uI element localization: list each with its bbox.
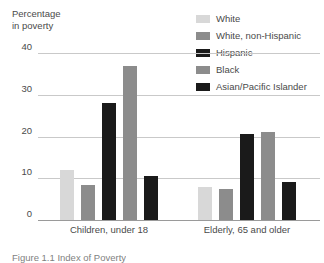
y-axis-title: Percentage in poverty <box>12 8 61 31</box>
bar-group <box>60 53 158 220</box>
bar[interactable] <box>240 134 254 220</box>
legend-item-label: White <box>216 14 240 24</box>
bar[interactable] <box>144 176 158 220</box>
y-axis-tick-label: 40 <box>21 42 32 52</box>
bar[interactable] <box>60 170 74 220</box>
bar[interactable] <box>219 189 233 220</box>
bar[interactable] <box>102 103 116 220</box>
y-axis-tick-label: 30 <box>21 84 32 94</box>
axis-baseline: 0 <box>38 220 320 221</box>
x-axis-category-label: Elderly, 65 and older <box>204 224 290 235</box>
bar[interactable] <box>261 132 275 220</box>
bar[interactable] <box>198 187 212 220</box>
legend-swatch-icon <box>196 15 210 23</box>
plot-area: 010203040 <box>38 53 320 220</box>
x-axis-category-labels: Children, under 18Elderly, 65 and older <box>38 224 320 238</box>
y-axis-tick-label: 20 <box>21 126 32 136</box>
legend-item[interactable]: White, non-Hispanic <box>196 27 324 44</box>
bar-groups <box>38 53 320 220</box>
bar[interactable] <box>81 185 95 220</box>
bar[interactable] <box>282 182 296 220</box>
bar[interactable] <box>123 66 137 220</box>
legend-item-label: White, non-Hispanic <box>216 31 301 41</box>
y-axis-tick-label: 10 <box>21 167 32 177</box>
legend-swatch-icon <box>196 32 210 40</box>
bar-group <box>198 53 296 220</box>
legend-item[interactable]: White <box>196 10 324 27</box>
figure-caption: Figure 1.1 Index of Poverty <box>12 252 126 263</box>
x-axis-category-label: Children, under 18 <box>70 224 148 235</box>
y-axis-tick-label: 0 <box>27 209 32 219</box>
